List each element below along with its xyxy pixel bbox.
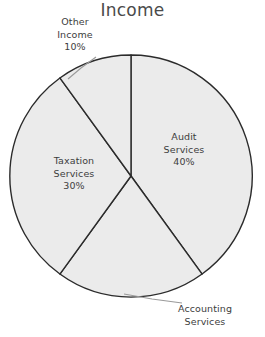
pie-label-other-income-line2: Income — [29, 29, 121, 42]
pie-label-taxation-services-value: 30% — [29, 180, 119, 193]
pie-label-audit-services-value: 40% — [141, 156, 227, 169]
pie-label-taxation-services-line2: Services — [29, 168, 119, 181]
pie-label-audit-services-line2: Services — [141, 144, 227, 157]
pie-label-accounting-services-line1: Accounting — [150, 303, 260, 316]
pie-label-taxation-services: Taxation Services 30% — [29, 155, 119, 193]
pie-label-accounting-services: Accounting Services — [150, 303, 260, 328]
pie-label-other-income-line1: Other — [29, 16, 121, 29]
pie-label-accounting-services-line2: Services — [150, 316, 260, 329]
pie-label-taxation-services-line1: Taxation — [29, 155, 119, 168]
pie-label-other-income-value: 10% — [29, 41, 121, 54]
pie-label-other-income: Other Income 10% — [29, 16, 121, 54]
pie-label-audit-services-line1: Audit — [141, 131, 227, 144]
pie-label-audit-services: Audit Services 40% — [141, 131, 227, 169]
pie-chart-figure: Income Other Income 10% Audit Services 4… — [0, 0, 265, 337]
